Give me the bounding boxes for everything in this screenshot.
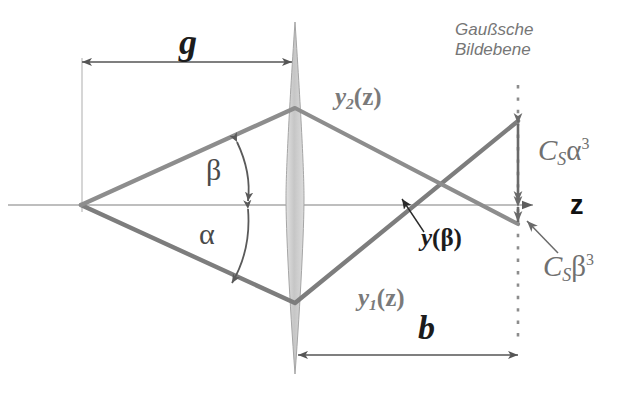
label-y-of-beta: y(β): [421, 225, 462, 250]
y-beta-argument: (β): [432, 224, 462, 251]
label-cs-alpha-cubed: CSα3: [538, 136, 590, 165]
gauss-plane-line-2: Bildebene: [455, 40, 533, 60]
gauss-plane-line-1: Gaußsche: [455, 20, 533, 40]
cs-beta-exponent: 3: [586, 251, 594, 268]
label-angle-beta: β: [206, 155, 221, 185]
label-axis-z: z: [570, 192, 584, 219]
label-gaussian-image-plane: Gaußsche Bildebene: [455, 20, 533, 60]
cs-beta-symbol: β: [571, 250, 586, 282]
y-beta-name: y: [421, 224, 432, 251]
label-object-distance-g: g: [179, 24, 197, 60]
label-angle-alpha: α: [199, 219, 215, 249]
cs-alpha-symbol: α: [566, 134, 581, 166]
ray1-argument: (z): [377, 284, 405, 311]
cs-alpha-exponent: 3: [582, 135, 590, 152]
angle-arc-alpha: [232, 209, 248, 283]
ray2-name: y: [335, 83, 346, 110]
ray2-subscript: 2: [346, 95, 354, 112]
cs-beta-subscript: S: [562, 265, 571, 285]
label-ray2-y2z: y2(z): [335, 84, 382, 109]
ray1-subscript: 1: [369, 296, 377, 313]
optical-ray-diagram: g b Gaußsche Bildebene y2(z) y1(z) β α y…: [0, 0, 623, 396]
angle-arc-beta: [237, 142, 249, 201]
lens-body: [286, 22, 304, 374]
ray2-argument: (z): [354, 83, 382, 110]
label-ray1-y1z: y1(z): [358, 285, 405, 310]
cs-beta-c: C: [543, 250, 562, 282]
cs-alpha-subscript: S: [557, 149, 566, 169]
ray1-name: y: [358, 284, 369, 311]
cs-alpha-c: C: [538, 134, 557, 166]
label-cs-beta-cubed: CSβ3: [543, 252, 594, 281]
label-image-distance-b: b: [418, 311, 435, 345]
pointer-cs-beta3: [527, 221, 558, 253]
